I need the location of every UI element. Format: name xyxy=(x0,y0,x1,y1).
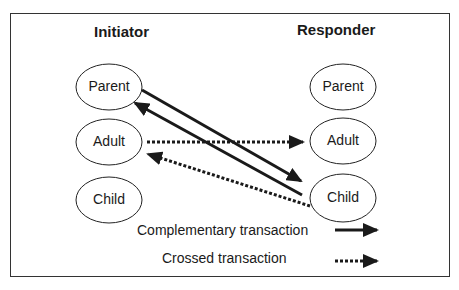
responder-parent-label: Parent xyxy=(310,78,376,94)
legend-complementary-label: Complementary transaction xyxy=(137,222,308,238)
initiator-parent-label: Parent xyxy=(76,78,142,94)
transaction-diagram xyxy=(0,0,459,290)
arrow-child-to-adult xyxy=(148,154,310,206)
responder-header: Responder xyxy=(297,21,375,38)
arrow-parent-to-child xyxy=(142,90,301,181)
legend-crossed-label: Crossed transaction xyxy=(162,250,287,266)
initiator-adult-label: Adult xyxy=(76,133,142,149)
initiator-header: Initiator xyxy=(94,23,149,40)
responder-child-label: Child xyxy=(310,189,376,205)
responder-adult-label: Adult xyxy=(310,132,376,148)
arrow-child-to-parent xyxy=(135,103,302,195)
initiator-child-label: Child xyxy=(76,191,142,207)
